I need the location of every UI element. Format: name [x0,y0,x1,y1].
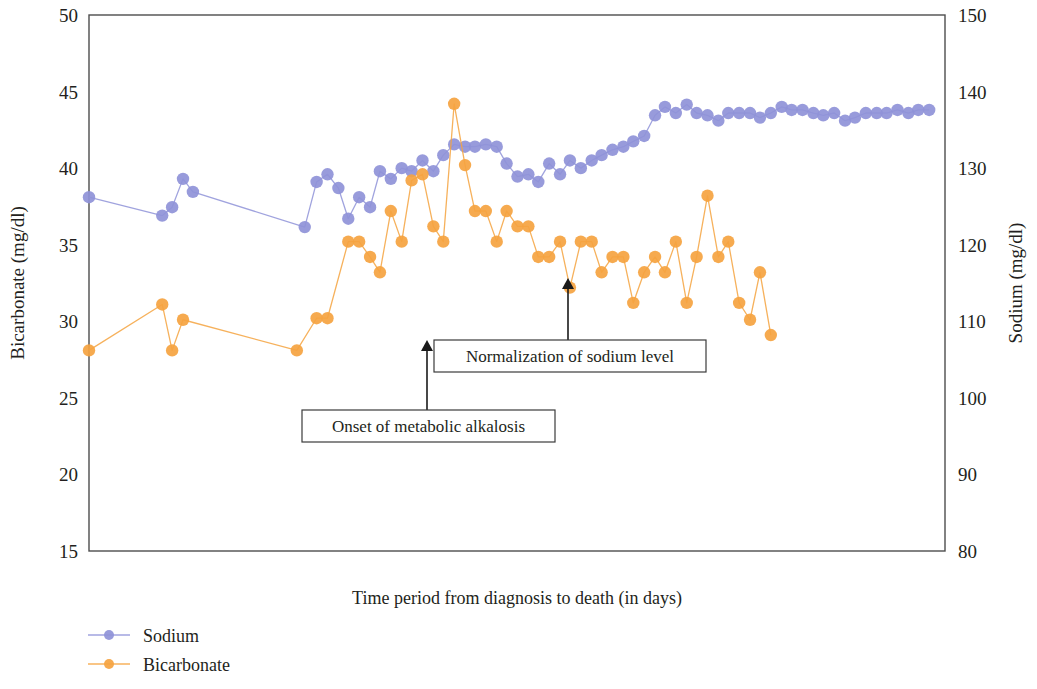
data-point-sodium [543,157,555,169]
data-point-bicarbonate [437,235,449,247]
data-point-sodium [310,176,322,188]
data-point-bicarbonate [480,205,492,217]
left-tick-label-45: 45 [59,82,78,103]
data-point-sodium [765,107,777,119]
data-point-sodium [342,212,354,224]
data-point-sodium [638,130,650,142]
data-point-bicarbonate [374,266,386,278]
left-tick-label-50: 50 [59,5,78,26]
data-point-sodium [500,157,512,169]
data-point-sodium [785,104,797,116]
right-tick-label-150: 150 [958,5,987,26]
data-point-bicarbonate [575,235,587,247]
data-point-sodium [670,107,682,119]
data-point-sodium [701,109,713,121]
data-point-bicarbonate [586,235,598,247]
data-point-bicarbonate [532,251,544,263]
right-axis-title: Sodium (mg/dl) [1005,223,1027,344]
legend-dot-marker [104,659,114,669]
data-point-bicarbonate [291,344,303,356]
data-point-sodium [332,182,344,194]
data-point-sodium [299,221,311,233]
data-point-sodium [385,173,397,185]
data-point-sodium [649,109,661,121]
legend-label: Sodium [143,626,199,646]
data-point-sodium [166,201,178,213]
data-point-sodium [681,98,693,110]
data-point-bicarbonate [353,235,365,247]
data-point-bicarbonate [690,251,702,263]
data-point-sodium [817,109,829,121]
data-point-bicarbonate [712,251,724,263]
right-tick-label-90: 90 [958,464,977,485]
right-tick-label-120: 120 [958,235,987,256]
data-point-bicarbonate [511,220,523,232]
data-point-bicarbonate [310,312,322,324]
data-point-bicarbonate [500,205,512,217]
data-point-sodium [828,107,840,119]
x-axis-title: Time period from diagnosis to death (in … [352,588,682,609]
dual-axis-line-chart: 1520253035404550 8090100110120130140150 … [0,0,1037,689]
data-point-bicarbonate [396,235,408,247]
data-point-bicarbonate [459,159,471,171]
data-point-bicarbonate [469,205,481,217]
data-point-bicarbonate [543,251,555,263]
data-point-sodium [511,170,523,182]
data-point-sodium [480,138,492,150]
data-point-bicarbonate [385,205,397,217]
data-point-sodium [156,209,168,221]
data-point-sodium [690,107,702,119]
data-point-sodium [427,165,439,177]
right-tick-label-110: 110 [958,311,986,332]
data-point-sodium [923,104,935,116]
data-point-sodium [912,104,924,116]
annotation-label: Normalization of sodium level [466,347,674,366]
data-point-bicarbonate [595,266,607,278]
data-point-sodium [522,168,534,180]
data-point-sodium [575,162,587,174]
data-point-sodium [321,168,333,180]
data-point-sodium [554,168,566,180]
right-tick-label-80: 80 [958,541,977,562]
data-point-bicarbonate [427,220,439,232]
data-point-sodium [532,176,544,188]
data-point-bicarbonate [166,344,178,356]
data-point-bicarbonate [554,235,566,247]
data-point-bicarbonate [627,297,639,309]
data-point-sodium [416,154,428,166]
data-point-bicarbonate [405,174,417,186]
data-point-sodium [891,104,903,116]
data-point-sodium [722,107,734,119]
left-tick-label-25: 25 [59,388,78,409]
left-axis-title: Bicarbonate (mg/dl) [7,206,29,360]
data-point-bicarbonate [659,266,671,278]
data-point-bicarbonate [83,344,95,356]
data-point-bicarbonate [754,266,766,278]
data-point-sodium [374,165,386,177]
data-point-bicarbonate [448,98,460,110]
data-point-bicarbonate [733,297,745,309]
left-tick-label-35: 35 [59,235,78,256]
data-point-sodium [187,186,199,198]
legend-dot-marker [104,630,114,640]
annotation-label: Onset of metabolic alkalosis [332,417,525,436]
data-point-sodium [754,111,766,123]
data-point-sodium [712,114,724,126]
data-point-sodium [595,149,607,161]
data-point-bicarbonate [416,168,428,180]
left-tick-label-40: 40 [59,158,78,179]
data-point-sodium [448,138,460,150]
right-tick-label-140: 140 [958,82,987,103]
left-tick-label-30: 30 [59,311,78,332]
data-point-bicarbonate [177,314,189,326]
data-point-bicarbonate [522,220,534,232]
legend-label: Bicarbonate [143,655,230,675]
data-point-bicarbonate [321,312,333,324]
left-tick-label-15: 15 [59,541,78,562]
data-point-bicarbonate [606,251,618,263]
data-point-bicarbonate [638,266,650,278]
data-point-sodium [733,107,745,119]
data-point-bicarbonate [744,314,756,326]
data-point-bicarbonate [765,329,777,341]
data-point-sodium [469,141,481,153]
